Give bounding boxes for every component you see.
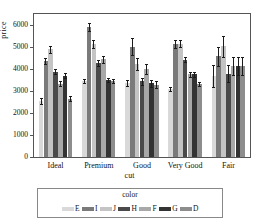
bar [68, 99, 73, 157]
legend-swatch [82, 207, 94, 211]
error-bar-cap [131, 38, 134, 39]
error-bar-cap [83, 83, 86, 84]
legend-item[interactable]: J [100, 205, 116, 213]
legend-item[interactable]: F [139, 205, 157, 213]
error-bar [132, 38, 133, 54]
error-bar-cap [198, 86, 201, 87]
y-tick-label: 5000 [0, 43, 28, 51]
error-bar-cap [64, 78, 67, 79]
y-tick-label: 4000 [0, 65, 28, 73]
error-bar-cap [212, 65, 215, 66]
x-tick-label: Fair [198, 161, 258, 170]
error-bar-cap [102, 56, 105, 57]
error-bar-cap [184, 62, 187, 63]
error-bar [180, 40, 181, 47]
error-bar-cap [174, 40, 177, 41]
error-bar-cap [107, 82, 110, 83]
error-bar-cap [212, 87, 215, 88]
legend-label: H [132, 205, 137, 213]
y-tick-label: 1000 [0, 131, 28, 139]
error-bar-cap [83, 79, 86, 80]
error-bar [175, 40, 176, 47]
error-bar-cap [241, 57, 244, 58]
legend-item[interactable]: I [82, 205, 98, 213]
error-bar-cap [126, 86, 129, 87]
legend-item[interactable]: H [118, 205, 137, 213]
legend-swatch [100, 207, 112, 211]
y-tick-label: 6000 [0, 21, 28, 29]
error-bar-cap [40, 104, 43, 105]
legend-label: J [113, 205, 116, 213]
error-bar-cap [49, 53, 52, 54]
legend-swatch [139, 207, 151, 211]
legend-label: D [193, 205, 198, 213]
legend-item[interactable]: E [62, 205, 80, 213]
error-bar-cap [189, 72, 192, 73]
error-bar-cap [49, 46, 52, 47]
error-bar-cap [150, 87, 153, 88]
error-bar-cap [54, 69, 57, 70]
error-bar-cap [145, 64, 148, 65]
error-bar-cap [232, 75, 235, 76]
bar-chart: price 0100020003000400050006000 IdealPre… [0, 0, 259, 224]
error-bar [146, 64, 147, 74]
legend-swatch [62, 207, 74, 211]
error-bar [233, 57, 234, 75]
error-bar-cap [189, 77, 192, 78]
error-bar-cap [102, 63, 105, 64]
error-bar [93, 40, 94, 48]
error-bar-cap [169, 87, 172, 88]
error-bar [228, 65, 229, 82]
error-bar-cap [174, 48, 177, 49]
error-bar-cap [155, 81, 158, 82]
error-bar-cap [179, 47, 182, 48]
legend-item[interactable]: G [159, 205, 178, 213]
legend-items: EIJHFGD [41, 202, 219, 216]
y-tick-label: 3000 [0, 87, 28, 95]
error-bar-cap [107, 78, 110, 79]
error-bar-cap [217, 47, 220, 48]
error-bar-cap [193, 72, 196, 73]
bar [240, 66, 245, 157]
plot-area [33, 13, 251, 158]
error-bar-cap [126, 80, 129, 81]
error-bar-cap [97, 66, 100, 67]
error-bar-cap [64, 73, 67, 74]
error-bar [238, 57, 239, 75]
error-bar [89, 23, 90, 31]
error-bar-cap [69, 101, 72, 102]
error-bar-cap [150, 80, 153, 81]
error-bar-cap [112, 79, 115, 80]
error-bar-cap [232, 57, 235, 58]
error-bar-cap [59, 81, 62, 82]
legend: color EIJHFGD [37, 188, 223, 218]
error-bar-cap [40, 98, 43, 99]
legend-label: F [152, 205, 156, 213]
legend-item[interactable]: D [180, 205, 199, 213]
legend-label: I [95, 205, 98, 213]
error-bar-cap [112, 83, 115, 84]
x-axis-title: cut [0, 171, 259, 180]
error-bar-cap [198, 82, 201, 83]
legend-swatch [118, 207, 130, 211]
error-bar-cap [92, 48, 95, 49]
error-bar-cap [222, 36, 225, 37]
error-bar-cap [88, 31, 91, 32]
legend-swatch [180, 207, 192, 211]
error-bar-cap [193, 77, 196, 78]
error-bar-cap [44, 58, 47, 59]
error-bar [50, 46, 51, 53]
bar [154, 85, 159, 157]
error-bar-cap [54, 74, 57, 75]
error-bar-cap [131, 55, 134, 56]
error-bar-cap [241, 75, 244, 76]
error-bar [137, 58, 138, 70]
error-bar-cap [155, 88, 158, 89]
error-bar-cap [222, 57, 225, 58]
error-bar-cap [227, 65, 230, 66]
error-bar-cap [44, 64, 47, 65]
error-bar-cap [92, 40, 95, 41]
error-bar-cap [141, 78, 144, 79]
error-bar [156, 81, 157, 88]
error-bar [213, 65, 214, 87]
